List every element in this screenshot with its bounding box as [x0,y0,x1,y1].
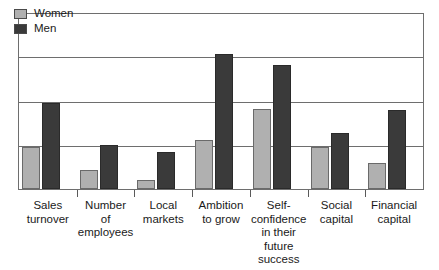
axis-tick [308,190,309,197]
bar-women [80,170,98,189]
category-label: Social capital [308,199,366,226]
bar-men [100,145,118,189]
axis-tick [365,190,366,197]
legend-label-men: Men [34,23,56,35]
bar-men [215,54,233,189]
axis-tick [77,190,78,197]
category-labels: Sales turnoverNumber of employeesLocal m… [19,199,423,267]
bar-group [250,14,308,189]
legend-swatch-men-icon [14,24,27,34]
bar-women [137,180,155,189]
category-label: Number of employees [77,199,135,240]
chart-legend: Women Men [14,6,73,36]
category-label: Self- confidence in their future success [250,199,308,267]
bar-men [388,110,406,189]
category-label: Financial capital [365,199,423,226]
bars-layer [19,14,423,189]
axis-ticks [19,190,423,198]
legend-item-men: Men [14,21,73,36]
bar-group [192,14,250,189]
bar-women [311,147,329,189]
bar-group [308,14,366,189]
axis-tick [192,190,193,197]
legend-swatch-women-icon [14,9,27,19]
bar-chart: Women Men Sales turnoverNumber of employ… [0,0,439,270]
bar-group [365,14,423,189]
bar-group [19,14,77,189]
category-label: Ambition to grow [192,199,250,226]
legend-item-women: Women [14,6,73,21]
bar-women [368,163,386,189]
bar-women [22,147,40,189]
bar-men [157,152,175,189]
legend-label-women: Women [34,8,73,20]
category-label: Sales turnover [19,199,77,226]
category-label: Local markets [134,199,192,226]
bar-men [42,103,60,189]
axis-tick [134,190,135,197]
bar-group [77,14,135,189]
axis-tick [250,190,251,197]
bar-group [134,14,192,189]
bar-women [195,140,213,189]
bar-men [273,65,291,189]
bar-men [331,133,349,189]
bar-women [253,109,271,190]
